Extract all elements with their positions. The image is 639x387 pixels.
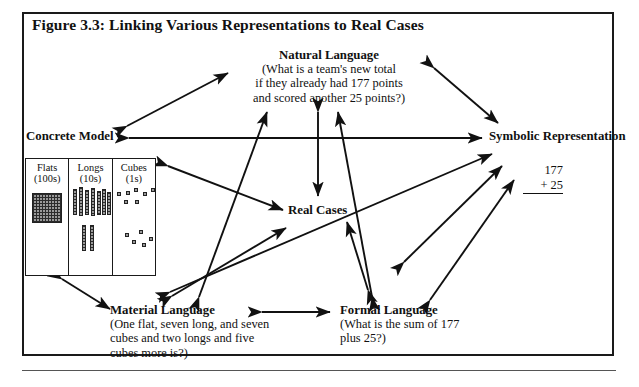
column-flats: Flats (100s) [26,159,69,275]
formal-language-line-1: (What is the sum of 177 [340,317,459,331]
natural-language-title: Natural Language [229,48,429,62]
cubes-label: Cubes [121,162,147,173]
unit-cube-icon [151,188,155,192]
material-language-line-3: cubes more is?) [110,346,269,360]
figure-title: Figure 3.3: Linking Various Representati… [32,16,424,34]
sum-addend-1: 177 [523,163,563,178]
unit-cube-icon [125,233,129,237]
symbolic-representation-title: Symbolic Representation [489,129,626,143]
long-rod-icon [91,188,95,216]
real-cases-title: Real Cases [288,203,347,217]
material-language-line-1: (One flat, seven long, and seven [110,317,269,331]
node-formal-language: Formal Language (What is the sum of 177 … [340,303,459,346]
node-concrete-model: Concrete Model [26,129,114,143]
long-rod-icon [85,190,89,215]
unit-cube-icon [117,192,121,196]
cubes-header: Cubes (1s) [113,162,155,185]
long-rod-icon [102,189,106,215]
node-natural-language: Natural Language (What is a team's new t… [229,48,429,105]
base-ten-blocks-table: Flats (100s) Longs (10s) [25,158,156,276]
unit-cube-icon [142,243,146,247]
formal-language-line-2: plus 25?) [340,331,459,345]
long-rod-icon [90,225,94,251]
node-material-language: Material Language (One flat, seven long,… [110,303,269,360]
material-language-line-2: cubes and two longs and five [110,331,269,345]
flats-artwork [26,187,68,275]
unit-cube-icon [124,200,128,204]
long-rod-icon [82,225,86,251]
longs-place-value: (10s) [69,173,111,184]
page-divider-rule [22,370,616,371]
unit-cube-icon [143,192,147,196]
longs-header: Longs (10s) [69,162,111,185]
sum-addend-2: + 25 [523,178,563,195]
concrete-model-title: Concrete Model [26,129,114,143]
unit-cube-icon [149,237,153,241]
cubes-place-value: (1s) [113,173,155,184]
unit-cube-icon [132,240,136,244]
long-rod-icon [97,191,101,215]
unit-cube-icon [135,200,139,204]
long-rod-icon [73,189,77,215]
longs-artwork [69,187,111,275]
column-longs: Longs (10s) [69,159,112,275]
figure-root: Figure 3.3: Linking Various Representati… [0,0,639,387]
formal-language-title: Formal Language [340,303,459,317]
flat-grid-icon [32,193,62,223]
unit-cube-icon [139,230,143,234]
natural-language-line-1: (What is a team's new total [229,62,429,76]
cubes-artwork [113,187,155,275]
symbolic-sum-expression: 177 + 25 [523,163,563,194]
longs-label: Longs [78,162,104,173]
flats-header: Flats (100s) [26,162,68,185]
flats-place-value: (100s) [26,173,68,184]
long-rod-icon [79,187,83,216]
unit-cube-icon [126,191,130,195]
natural-language-line-3: and scored another 25 points?) [229,91,429,105]
natural-language-line-2: if they already had 177 points [229,76,429,90]
column-cubes: Cubes (1s) [113,159,155,275]
node-real-cases: Real Cases [288,203,347,217]
flats-label: Flats [37,162,57,173]
node-symbolic-representation: Symbolic Representation [489,129,626,143]
material-language-title: Material Language [110,303,269,317]
long-rod-icon [107,192,111,215]
unit-cube-icon [134,188,138,192]
